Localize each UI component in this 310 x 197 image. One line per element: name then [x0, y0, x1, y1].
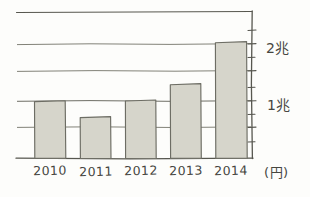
x-axis-unit-label: (円)	[264, 162, 289, 181]
hand-drawn-bar-chart: 2兆 1兆 2010 2011 2012 2013 2014 (円)	[0, 0, 310, 197]
y-tick-label-1cho: 1兆	[267, 94, 291, 114]
bar-2011	[80, 117, 111, 159]
y-axis-line	[251, 11, 252, 159]
x-tick-label-2010: 2010	[27, 163, 73, 179]
x-tick-label-2012: 2012	[118, 163, 164, 179]
bar-2014	[215, 42, 247, 159]
bar-2010	[35, 101, 66, 159]
bars-group	[35, 42, 248, 159]
chart-top-frame-line	[17, 12, 253, 13]
x-tick-label-2014: 2014	[208, 163, 254, 179]
bar-2013	[170, 84, 201, 159]
bar-2012	[125, 100, 156, 159]
x-tick-label-2013: 2013	[163, 163, 209, 179]
y-tick-label-2cho: 2兆	[266, 37, 290, 57]
x-tick-label-2011: 2011	[73, 164, 119, 180]
